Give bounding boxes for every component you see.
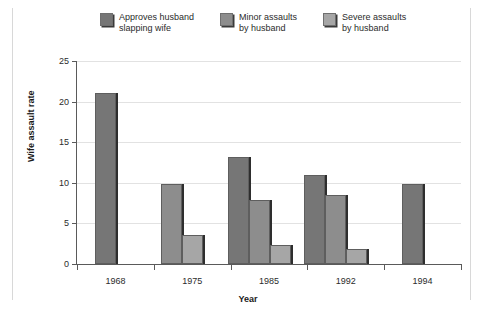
x-axis-tick-label: 1992: [336, 276, 356, 286]
legend-swatch-icon: [220, 13, 233, 26]
y-axis-tick-label: 5: [64, 218, 69, 228]
x-axis-tick-label: 1994: [413, 276, 433, 286]
x-axis-line: [76, 264, 462, 265]
x-axis-tick-label: 1968: [105, 276, 125, 286]
figure-frame-right-border: [470, 8, 471, 300]
chart-legend: Approves husband slapping wifeMinor assa…: [100, 12, 406, 33]
x-axis-tick-label: 1985: [259, 276, 279, 286]
bar-group: [95, 61, 116, 264]
legend-swatch-icon: [323, 13, 336, 26]
legend-item-label: Minor assaults by husband: [239, 12, 297, 33]
bar-group: [161, 61, 203, 264]
bar[interactable]: [402, 184, 423, 264]
x-axis-tick: [154, 264, 155, 270]
x-axis-tick: [307, 264, 308, 270]
y-axis-tick-label: 20: [59, 97, 69, 107]
y-axis-tick-label: 0: [64, 259, 69, 269]
x-axis-tick: [384, 264, 385, 270]
bar[interactable]: [95, 93, 116, 264]
bar-group: [304, 61, 367, 264]
bar[interactable]: [228, 157, 249, 264]
legend-item-label: Approves husband slapping wife: [119, 12, 194, 33]
bar[interactable]: [249, 200, 270, 264]
bar[interactable]: [161, 184, 182, 264]
bar-group: [402, 61, 423, 264]
chart-figure: Approves husband slapping wifeMinor assa…: [0, 0, 496, 316]
y-axis-tick-label: 15: [59, 137, 69, 147]
bar[interactable]: [270, 245, 291, 264]
legend-item[interactable]: Minor assaults by husband: [220, 12, 297, 33]
x-axis-tick-label: 1975: [182, 276, 202, 286]
x-axis-tick: [231, 264, 232, 270]
bar[interactable]: [325, 195, 346, 264]
bar[interactable]: [304, 175, 325, 264]
x-axis-title: Year: [0, 294, 496, 304]
y-axis-tick-label: 10: [59, 178, 69, 188]
legend-item-label: Severe assaults by husband: [342, 12, 406, 33]
plot-area: 0510152025: [77, 61, 461, 264]
y-axis-tick-label: 25: [59, 56, 69, 66]
legend-swatch-icon: [100, 13, 113, 26]
legend-item[interactable]: Approves husband slapping wife: [100, 12, 194, 33]
bars-layer: [77, 61, 461, 264]
bar[interactable]: [182, 235, 203, 264]
bar[interactable]: [346, 249, 367, 264]
bar-group: [228, 61, 291, 264]
x-axis-tick: [461, 264, 462, 270]
x-axis-tick: [77, 264, 78, 270]
legend-item[interactable]: Severe assaults by husband: [323, 12, 406, 33]
figure-frame-left-border: [12, 8, 13, 300]
y-axis-title: Wife assault rate: [26, 91, 36, 162]
